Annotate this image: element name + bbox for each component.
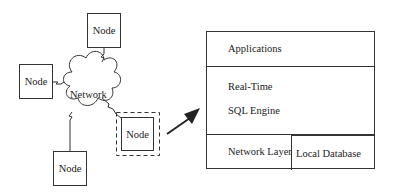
layer-sublabel: SQL Engine	[228, 105, 280, 117]
link-left	[53, 82, 64, 84]
layer-sql-engine: Real-Time SQL Engine Local Database	[207, 67, 374, 135]
node-top: Node	[87, 13, 121, 48]
arrow-shaft	[167, 118, 190, 134]
node-label: Node	[93, 25, 116, 36]
node-highlighted: Node	[121, 117, 154, 151]
link-bottom	[69, 112, 72, 151]
layer-label: Real-Time	[228, 81, 273, 93]
node-label: Node	[25, 76, 48, 87]
node-label: Node	[126, 129, 149, 140]
node-label: Node	[59, 163, 82, 174]
layer-applications: Applications	[207, 32, 374, 67]
node-architecture: Applications Real-Time SQL Engine Local …	[206, 31, 375, 169]
node-bottom: Node	[53, 151, 87, 186]
link-highlighted	[102, 98, 121, 118]
layer-network: Network Layer	[207, 135, 374, 168]
layer-label: Network Layer	[228, 146, 292, 158]
layer-label: Applications	[228, 43, 282, 55]
network-cloud-label: Network	[70, 89, 107, 101]
node-left: Node	[19, 64, 53, 99]
